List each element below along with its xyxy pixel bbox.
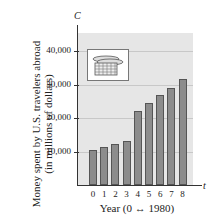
y-tick xyxy=(74,85,79,86)
bar xyxy=(179,79,187,185)
x-axis-label: Year (0 ↔ 1980) xyxy=(77,202,197,214)
bar xyxy=(123,141,131,185)
bar xyxy=(145,103,153,185)
gridline xyxy=(77,85,193,86)
y-axis-label-line1: Money spent by U.S. travelers abroad xyxy=(30,24,42,220)
x-tick-label: 8 xyxy=(178,189,188,199)
y-tick-label: 10,000 xyxy=(46,146,71,156)
x-axis-symbol: t xyxy=(203,180,206,191)
y-tick-label: 20,000 xyxy=(46,112,71,122)
x-tick-label: 6 xyxy=(155,189,165,199)
bar xyxy=(89,150,97,185)
x-tick-label: 5 xyxy=(144,189,154,199)
y-tick xyxy=(74,51,79,52)
y-tick xyxy=(74,152,79,153)
x-tick-label: 7 xyxy=(166,189,176,199)
x-tick-label: 0 xyxy=(88,189,98,199)
x-tick-label: 3 xyxy=(122,189,132,199)
y-tick-label: 40,000 xyxy=(46,45,71,55)
x-tick-label: 2 xyxy=(110,189,120,199)
bar xyxy=(156,95,164,185)
x-axis xyxy=(77,185,202,186)
x-tick-label: 4 xyxy=(133,189,143,199)
y-tick xyxy=(74,118,79,119)
bar xyxy=(167,88,175,185)
bar xyxy=(100,147,108,185)
x-tick-label: 1 xyxy=(99,189,109,199)
stack-of-coins-icon xyxy=(87,49,129,81)
bar xyxy=(134,111,142,185)
bar xyxy=(111,144,119,185)
y-axis-symbol: C xyxy=(74,10,81,21)
y-tick-label: 30,000 xyxy=(46,79,71,89)
y-axis xyxy=(77,25,78,186)
